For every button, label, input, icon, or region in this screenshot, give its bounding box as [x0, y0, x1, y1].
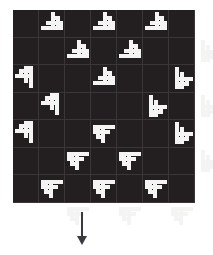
grid-cell [13, 10, 39, 38]
motif-bar [153, 105, 167, 109]
motif-bar [205, 114, 210, 117]
arrow-head-icon [77, 236, 87, 245]
motif-bar [86, 49, 89, 54]
arrow-shaft [81, 212, 83, 236]
motif-bar [119, 54, 141, 58]
motif-bar [19, 69, 29, 73]
motif-bar [103, 12, 107, 26]
motif-bar [67, 54, 89, 58]
motif-bar [60, 21, 63, 26]
motif-bar [41, 26, 63, 30]
motif-bar [24, 121, 29, 124]
motif-bar [179, 141, 184, 144]
motif-bar [67, 211, 70, 216]
motif-bar [15, 129, 29, 133]
motif-bar [205, 55, 213, 59]
motif-bar [174, 211, 178, 221]
motif-bar [51, 12, 55, 26]
motif-bar [179, 132, 193, 136]
motif-bar [205, 169, 210, 172]
motif-bar [19, 124, 29, 128]
pattern-grid [13, 10, 195, 203]
motif-bar [205, 50, 213, 54]
motif-bar [29, 121, 33, 143]
motif-bar [103, 67, 107, 81]
motif-bar [179, 211, 183, 225]
motif-bar [29, 66, 33, 88]
motif-bar [93, 26, 115, 30]
motif-bar [205, 59, 210, 62]
motif-bar [171, 211, 174, 216]
motif-bar [70, 211, 74, 221]
staircase-pinwheel-block [143, 175, 195, 227]
motif-bar [15, 74, 29, 78]
down-arrow [77, 212, 87, 245]
motif-bar [205, 160, 213, 164]
motif-bar [179, 77, 193, 81]
staircase-pinwheel-block [91, 175, 143, 227]
motif-bar [119, 211, 122, 216]
motif-bar [155, 12, 159, 26]
motif-bar [24, 66, 29, 69]
motif-bar [112, 21, 115, 26]
motif-bar [127, 211, 131, 225]
motif-bar [112, 76, 115, 81]
motif-bar [129, 40, 133, 54]
motif-bar [205, 105, 213, 109]
motif-bar [164, 21, 167, 26]
motif-bar [93, 81, 115, 85]
motif-bar [145, 26, 167, 30]
motif-bar [138, 49, 141, 54]
motif-bar [179, 86, 184, 89]
figure-canvas [0, 0, 213, 255]
motif-bar [153, 114, 158, 117]
motif-bar [77, 40, 81, 54]
motif-bar [122, 211, 126, 221]
